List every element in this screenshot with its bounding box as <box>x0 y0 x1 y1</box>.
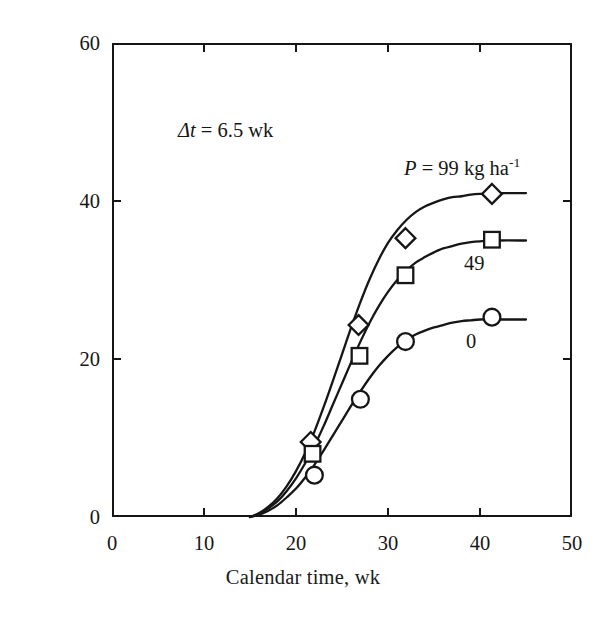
x-axis-title: Calendar time, wk <box>0 566 606 589</box>
y-tick-label-0: 0 <box>56 507 100 528</box>
annotation-p-99: P = 99 kg ha-1 <box>404 155 520 180</box>
data-point-99-3 <box>482 184 502 204</box>
data-point-49-3 <box>484 232 500 248</box>
data-point-0-0 <box>306 467 323 484</box>
data-point-99-2 <box>396 228 416 248</box>
data-point-49-2 <box>398 267 414 283</box>
chart-canvas <box>0 0 606 623</box>
data-point-49-1 <box>352 348 368 364</box>
axis-ticks <box>112 43 572 517</box>
y-tick-label-40: 40 <box>56 191 100 212</box>
x-tick-label-0: 0 <box>107 533 117 554</box>
series-curve-0 <box>250 319 526 517</box>
x-tick-label-30: 30 <box>378 533 399 554</box>
x-tick-label-40: 40 <box>470 533 491 554</box>
annotation-delta-t-symbol: Δt <box>178 119 196 141</box>
annotation-delta-t-text: = 6.5 wk <box>196 119 274 141</box>
annotation-p-0: 0 <box>466 330 476 353</box>
annotation-delta-t: Δt = 6.5 wk <box>178 119 273 142</box>
annotation-p-99-symbol: P <box>404 157 417 179</box>
data-point-0-2 <box>397 333 414 350</box>
x-tick-label-20: 20 <box>286 533 307 554</box>
data-point-0-1 <box>352 391 369 408</box>
annotation-p-99-text: = 99 kg ha <box>417 157 509 179</box>
annotation-p-49: 49 <box>464 252 485 275</box>
annotation-p-99-exponent: -1 <box>509 155 520 170</box>
data-point-49-0 <box>305 446 321 462</box>
figure-container: 0204060 01020304050 Plant P uptake, kg h… <box>0 0 606 623</box>
x-tick-label-50: 50 <box>562 533 583 554</box>
data-point-0-3 <box>484 309 501 326</box>
y-tick-label-60: 60 <box>56 33 100 54</box>
y-tick-label-20: 20 <box>56 349 100 370</box>
x-tick-label-10: 10 <box>194 533 215 554</box>
series-curve-49 <box>250 240 526 517</box>
